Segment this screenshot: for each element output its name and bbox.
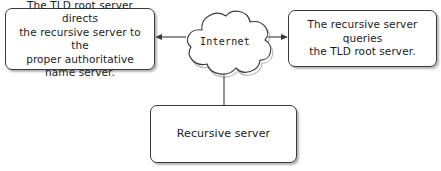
node-recursive-server-queries: The recursive server queries the TLD roo… — [288, 10, 437, 67]
dns-flow-diagram: The TLD root server directs the recursiv… — [0, 0, 441, 171]
node-internet-cloud: Internet — [172, 6, 278, 82]
node-recursive-server-label: Recursive server — [172, 127, 275, 141]
node-recursive-server: Recursive server — [150, 105, 297, 163]
node-tld-root-directs: The TLD root server directs the recursiv… — [5, 8, 155, 70]
node-recursive-server-queries-label: The recursive server queries the TLD roo… — [289, 18, 436, 59]
node-tld-root-directs-label: The TLD root server directs the recursiv… — [6, 0, 154, 80]
node-internet-cloud-label: Internet — [172, 36, 278, 47]
